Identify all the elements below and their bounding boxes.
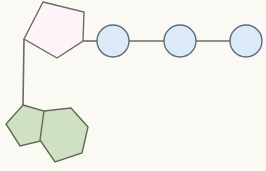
phosphate-circle-1 <box>97 25 129 57</box>
bond-sugar-to-base <box>23 39 24 105</box>
phosphate-circle-3 <box>230 25 262 57</box>
molecular-diagram-canvas <box>0 0 266 171</box>
phosphate-group <box>97 25 262 57</box>
molecule-svg <box>0 0 266 171</box>
phosphate-circle-2 <box>164 25 196 57</box>
